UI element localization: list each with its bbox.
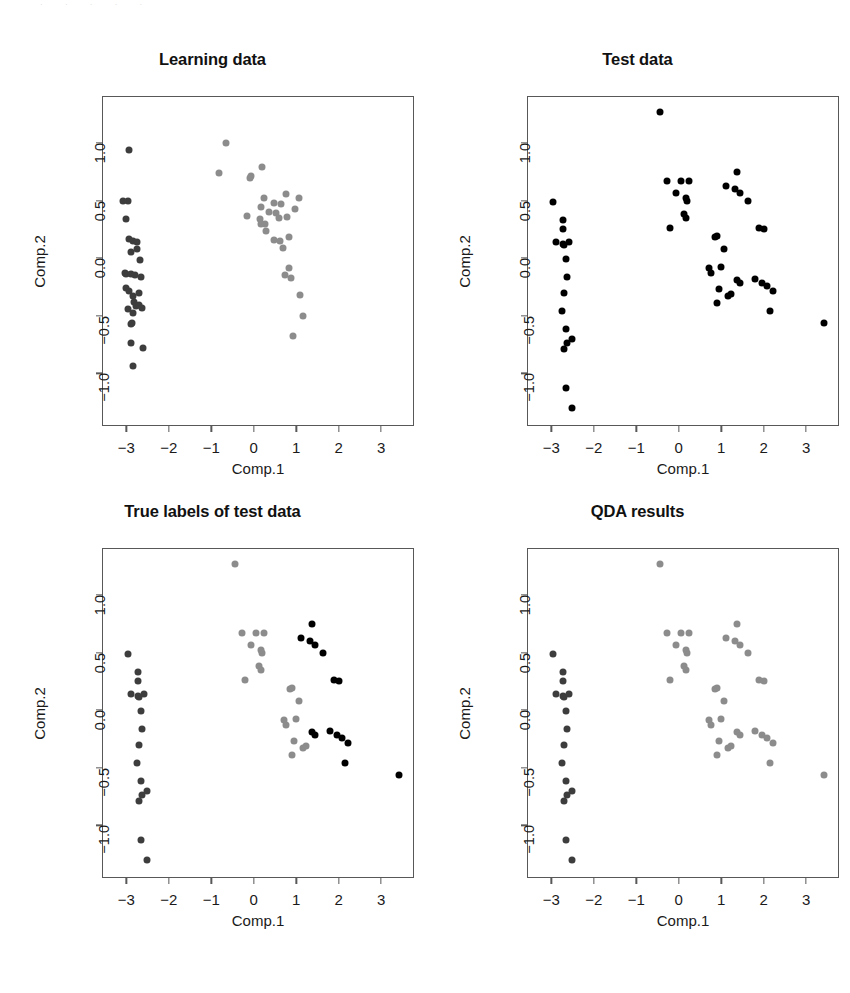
- x-axis-title: Comp.1: [102, 912, 414, 929]
- x-axis-tick-mark: [126, 425, 127, 432]
- scatter-point: [396, 771, 403, 778]
- scatter-point: [550, 198, 557, 205]
- y-axis-title-text: Comp.2: [31, 687, 48, 740]
- x-axis-tick-mark: [168, 877, 169, 884]
- scatter-point: [664, 178, 671, 185]
- y-axis-title: Comp.2: [30, 96, 48, 426]
- panel-qda-results: QDA results Comp.2 −1.0−0.50.00.51.0−3−2…: [425, 480, 850, 950]
- y-axis-tick-label: 0.5: [517, 201, 533, 221]
- panel-title: True labels of test data: [0, 502, 425, 521]
- x-axis-title: Comp.1: [102, 460, 414, 477]
- x-axis-tick-label: 0: [250, 439, 258, 456]
- scatter-point: [122, 215, 129, 222]
- x-axis-tick-label: −1: [203, 891, 220, 908]
- scatter-point: [258, 204, 265, 211]
- scatter-point: [297, 291, 304, 298]
- scatter-point: [564, 725, 571, 732]
- scatter-point: [568, 856, 575, 863]
- y-axis-tick-label: −0.5: [521, 768, 537, 797]
- scatter-point: [713, 752, 720, 759]
- x-axis-tick-label: 3: [377, 439, 385, 456]
- y-axis-tick-label: −0.5: [521, 316, 537, 345]
- scatter-point: [289, 333, 296, 340]
- x-axis-tick-mark: [338, 877, 339, 884]
- scatter-point: [764, 282, 771, 289]
- scatter-point: [566, 691, 573, 698]
- y-axis-tick-label: −0.5: [96, 316, 112, 345]
- panel-learning-data: Learning data Comp.2 −1.0−0.50.00.51.0−3…: [0, 28, 425, 498]
- scatter-point: [286, 234, 293, 241]
- scatter-point: [561, 798, 568, 805]
- x-axis-tick-mark: [211, 425, 212, 432]
- x-axis-tick-label: −2: [585, 439, 602, 456]
- plot-area: −1.0−0.50.00.51.0−3−2−10123: [527, 96, 839, 426]
- scatter-point: [119, 197, 126, 204]
- scatter-point: [737, 641, 744, 648]
- x-axis-tick-label: 0: [675, 891, 683, 908]
- scatter-point: [259, 164, 266, 171]
- scatter-point: [260, 195, 267, 202]
- y-axis-title-text: Comp.2: [31, 235, 48, 288]
- scatter-point: [277, 201, 284, 208]
- x-axis-tick-label: 1: [292, 439, 300, 456]
- y-axis-title: Comp.2: [30, 548, 48, 878]
- scatter-point: [136, 798, 143, 805]
- x-axis-tick-mark: [253, 877, 254, 884]
- x-axis-tick-label: 2: [335, 439, 343, 456]
- x-axis-tick-mark: [551, 877, 552, 884]
- scatter-point: [309, 620, 316, 627]
- y-axis-tick-label: 0.5: [92, 201, 108, 221]
- scatter-point: [246, 174, 253, 181]
- scatter-point: [559, 308, 566, 315]
- scatter-point: [667, 677, 674, 684]
- figure-grid: Learning data Comp.2 −1.0−0.50.00.51.0−3…: [0, 18, 850, 993]
- x-axis-tick-label: 1: [292, 891, 300, 908]
- x-axis-tick-label: 2: [760, 439, 768, 456]
- scatter-point: [677, 630, 684, 637]
- scatter-point: [326, 727, 333, 734]
- x-axis-tick-label: −2: [160, 891, 177, 908]
- plot-area: −1.0−0.50.00.51.0−3−2−10123: [102, 96, 414, 426]
- scatter-point: [744, 197, 751, 204]
- scatter-point: [300, 312, 307, 319]
- scatter-point: [722, 182, 729, 189]
- y-axis-title-text: Comp.2: [456, 687, 473, 740]
- scatter-point: [283, 213, 290, 220]
- x-axis-tick-mark: [636, 877, 637, 884]
- scatter-point: [770, 740, 777, 747]
- scatter-point: [720, 245, 727, 252]
- x-axis-tick-mark: [126, 877, 127, 884]
- scatter-point: [282, 190, 289, 197]
- panel-title: Test data: [425, 50, 850, 69]
- scatter-point: [734, 168, 741, 175]
- x-axis-tick-mark: [253, 425, 254, 432]
- scatter-point: [568, 787, 575, 794]
- scatter-point: [718, 264, 725, 271]
- panel-title: QDA results: [425, 502, 850, 521]
- x-axis-tick-mark: [593, 425, 594, 432]
- scatter-point: [559, 217, 566, 224]
- panel-title: Learning data: [0, 50, 425, 69]
- scatter-point: [134, 245, 141, 252]
- scatter-point: [657, 560, 664, 567]
- scatter-point: [260, 630, 267, 637]
- scatter-point: [682, 647, 689, 654]
- scatter-point: [672, 641, 679, 648]
- x-axis-tick-label: 3: [377, 891, 385, 908]
- scatter-point: [672, 189, 679, 196]
- x-axis-tick-mark: [551, 425, 552, 432]
- scatter-point: [720, 697, 727, 704]
- x-axis-tick-label: 2: [335, 891, 343, 908]
- scatter-point: [718, 716, 725, 723]
- x-axis-tick-mark: [593, 877, 594, 884]
- scatter-point: [728, 290, 735, 297]
- scatter-point: [345, 740, 352, 747]
- y-axis-tick-label: 1.0: [92, 143, 108, 163]
- scatter-point: [751, 727, 758, 734]
- scatter-point: [222, 140, 229, 147]
- x-axis-tick-label: −1: [203, 439, 220, 456]
- scatter-point: [286, 265, 293, 272]
- scatter-point: [239, 630, 246, 637]
- scatter-point: [728, 742, 735, 749]
- scatter-point: [751, 275, 758, 282]
